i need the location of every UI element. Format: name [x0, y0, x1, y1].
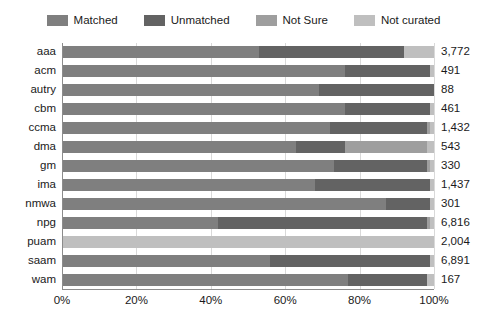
bar-value-label: 1,432 — [441, 121, 470, 133]
bar-value-label: 1,437 — [441, 178, 470, 190]
bar-segment-not-curated[interactable] — [427, 274, 434, 286]
y-axis-tick-label: saam — [0, 254, 56, 266]
x-axis-tick-labels: 0%20%40%60%80%100% — [62, 294, 434, 310]
y-axis-tick-label: dma — [0, 140, 56, 152]
bar-value-label: 543 — [441, 140, 460, 152]
bar-segment-not-curated[interactable] — [430, 65, 434, 77]
y-axis-tick-label: nmwa — [0, 197, 56, 209]
bar-value-label: 167 — [441, 273, 460, 285]
bar-segment-matched[interactable] — [62, 141, 296, 153]
bar-segment-not-curated[interactable] — [430, 103, 434, 115]
legend-item[interactable]: Not Sure — [256, 14, 328, 26]
bar-segment-not-curated[interactable] — [430, 122, 434, 134]
bar-row[interactable] — [62, 84, 434, 96]
bar-row[interactable] — [62, 141, 434, 153]
y-axis-tick-label: npg — [0, 216, 56, 228]
bar-segment-unmatched[interactable] — [386, 198, 431, 210]
x-axis-tick-label: 60% — [274, 294, 297, 306]
y-axis-tick-label: puam — [0, 235, 56, 247]
bar-segment-not-curated[interactable] — [430, 179, 434, 191]
x-axis-line — [62, 289, 434, 290]
bar-value-label: 301 — [441, 197, 460, 209]
bar-segment-not-curated[interactable] — [430, 198, 434, 210]
legend-item-label: Unmatched — [171, 14, 230, 26]
bar-segment-not-curated[interactable] — [430, 217, 434, 229]
x-axis-tick-label: 0% — [54, 294, 71, 306]
y-axis-tick-label: wam — [0, 273, 56, 285]
x-axis-tick-label: 80% — [348, 294, 371, 306]
y-axis-line — [62, 43, 63, 289]
bar-value-label: 88 — [441, 83, 454, 95]
bar-segment-matched[interactable] — [62, 103, 345, 115]
x-axis-tick-label: 40% — [199, 294, 222, 306]
bar-row[interactable] — [62, 65, 434, 77]
bar-row[interactable] — [62, 255, 434, 267]
bar-row[interactable] — [62, 122, 434, 134]
bar-segment-not-curated[interactable] — [62, 236, 434, 248]
x-axis-tick-label: 100% — [419, 294, 448, 306]
bar-segment-matched[interactable] — [62, 179, 315, 191]
bar-segment-not-curated[interactable] — [404, 46, 434, 58]
bar-segment-unmatched[interactable] — [218, 217, 426, 229]
stacked-bar-chart: MatchedUnmatchedNot SureNot curated aaaa… — [0, 0, 487, 320]
y-axis-tick-label: aaa — [0, 45, 56, 57]
legend-item-label: Not Sure — [283, 14, 328, 26]
legend-item[interactable]: Unmatched — [144, 14, 230, 26]
bar-segment-unmatched[interactable] — [259, 46, 404, 58]
bar-row[interactable] — [62, 179, 434, 191]
bar-segment-unmatched[interactable] — [348, 274, 426, 286]
y-axis-tick-label: autry — [0, 83, 56, 95]
legend-item[interactable]: Not curated — [354, 14, 440, 26]
legend-item[interactable]: Matched — [47, 14, 118, 26]
legend-swatch-unmatched — [144, 15, 165, 26]
bar-value-label: 2,004 — [441, 235, 470, 247]
y-axis-tick-label: gm — [0, 159, 56, 171]
chart-legend: MatchedUnmatchedNot SureNot curated — [0, 14, 487, 26]
bar-value-label: 330 — [441, 159, 460, 171]
bar-value-label: 6,816 — [441, 216, 470, 228]
bar-segment-unmatched[interactable] — [345, 103, 431, 115]
bar-segment-unmatched[interactable] — [345, 65, 431, 77]
bar-segment-unmatched[interactable] — [270, 255, 430, 267]
bar-row[interactable] — [62, 103, 434, 115]
bar-segment-matched[interactable] — [62, 198, 386, 210]
bar-row[interactable] — [62, 217, 434, 229]
bar-row[interactable] — [62, 236, 434, 248]
bar-segment-matched[interactable] — [62, 274, 348, 286]
bar-segment-not-curated[interactable] — [427, 141, 434, 153]
y-axis-tick-label: ccma — [0, 121, 56, 133]
bar-value-label: 491 — [441, 64, 460, 76]
bar-row[interactable] — [62, 46, 434, 58]
bar-row[interactable] — [62, 160, 434, 172]
bar-segment-matched[interactable] — [62, 160, 334, 172]
y-axis-tick-label: ima — [0, 178, 56, 190]
x-gridline — [434, 43, 435, 289]
plot-inner — [62, 43, 434, 289]
bar-segment-not-curated[interactable] — [430, 255, 434, 267]
legend-swatch-not-curated — [354, 15, 375, 26]
bar-segment-matched[interactable] — [62, 122, 330, 134]
plot-area — [62, 43, 434, 289]
bar-segment-unmatched[interactable] — [334, 160, 427, 172]
y-axis-tick-label: cbm — [0, 102, 56, 114]
bar-segment-not-curated[interactable] — [430, 160, 434, 172]
bar-segment-matched[interactable] — [62, 217, 218, 229]
bar-segment-matched[interactable] — [62, 65, 345, 77]
bar-segment-matched[interactable] — [62, 84, 319, 96]
y-axis-tick-label: acm — [0, 64, 56, 76]
bar-segment-matched[interactable] — [62, 46, 259, 58]
bar-segment-unmatched[interactable] — [319, 84, 434, 96]
bar-segment-unmatched[interactable] — [330, 122, 427, 134]
x-axis-tick-label: 20% — [125, 294, 148, 306]
bar-value-label: 3,772 — [441, 45, 470, 57]
bar-segment-unmatched[interactable] — [296, 141, 344, 153]
bar-value-label: 461 — [441, 102, 460, 114]
bar-segment-not-sure[interactable] — [345, 141, 427, 153]
legend-swatch-not-sure — [256, 15, 277, 26]
bar-segment-matched[interactable] — [62, 255, 270, 267]
bar-segment-unmatched[interactable] — [315, 179, 430, 191]
legend-swatch-matched — [47, 15, 68, 26]
bar-row[interactable] — [62, 198, 434, 210]
legend-item-label: Not curated — [381, 14, 440, 26]
bar-row[interactable] — [62, 274, 434, 286]
